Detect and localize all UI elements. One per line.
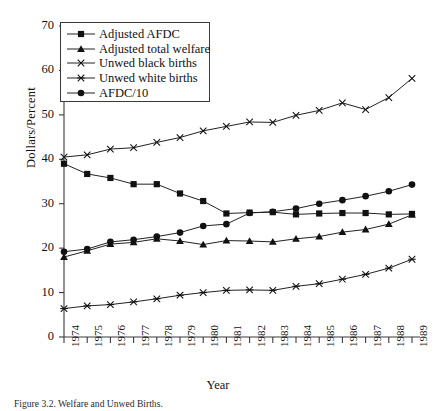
x-tick-label: 1984 xyxy=(301,325,313,347)
figure-caption: Figure 3.2. Welfare and Unwed Births. xyxy=(14,398,434,411)
legend-item-unwed-black-births: Unwed black births xyxy=(66,56,204,71)
x-axis-label: Year xyxy=(0,378,436,393)
y-tick-label: 30 xyxy=(24,196,54,211)
y-tick-label: 20 xyxy=(24,240,54,255)
x-tick-label: 1987 xyxy=(371,325,383,347)
x-marker-icon xyxy=(66,56,96,70)
x-tick-label: 1979 xyxy=(185,325,197,347)
legend-item-afdc-10: AFDC/10 xyxy=(66,85,204,100)
x-tick-label: 1976 xyxy=(115,325,127,347)
x-tick-label: 1983 xyxy=(278,325,290,347)
x-tick-label: 1974 xyxy=(69,325,81,347)
asterisk-marker-icon xyxy=(66,71,96,85)
x-tick-label: 1977 xyxy=(139,325,151,347)
legend-label: Unwed white births xyxy=(96,71,198,85)
legend-label: Adjusted AFDC xyxy=(96,27,180,41)
y-tick-label: 60 xyxy=(24,62,54,77)
y-tick-label: 0 xyxy=(24,329,54,344)
y-tick-label: 50 xyxy=(24,107,54,122)
x-tick-label: 1981 xyxy=(231,325,243,347)
legend-item-adjusted-afdc: Adjusted AFDC xyxy=(66,27,204,42)
chart-legend: Adjusted AFDCAdjusted total welfareUnwed… xyxy=(60,22,210,102)
x-tick-label: 1980 xyxy=(208,325,220,347)
triangle-marker-icon xyxy=(66,42,96,56)
x-tick-label: 1982 xyxy=(255,325,267,347)
legend-label: Adjusted total welfare xyxy=(96,42,210,56)
x-tick-label: 1989 xyxy=(417,325,429,347)
legend-item-unwed-white-births: Unwed white births xyxy=(66,71,204,86)
figure-container: Dollars/Percent Year 010203040506070 197… xyxy=(0,0,436,411)
y-tick-label: 70 xyxy=(24,18,54,33)
y-tick-label: 10 xyxy=(24,285,54,300)
series-unwed-white-births xyxy=(60,256,415,312)
legend-item-adjusted-total-welfare: Adjusted total welfare xyxy=(66,42,204,57)
legend-label: Unwed black births xyxy=(96,56,197,70)
square-marker-icon xyxy=(66,27,96,41)
circle-marker-icon xyxy=(66,86,96,100)
x-tick-label: 1978 xyxy=(162,325,174,347)
y-tick-label: 40 xyxy=(24,151,54,166)
x-tick-label: 1975 xyxy=(92,325,104,347)
series-adjusted-afdc xyxy=(61,161,415,218)
legend-label: AFDC/10 xyxy=(96,86,148,100)
x-tick-label: 1985 xyxy=(324,325,336,347)
x-tick-label: 1988 xyxy=(394,325,406,347)
x-tick-label: 1986 xyxy=(347,325,359,347)
